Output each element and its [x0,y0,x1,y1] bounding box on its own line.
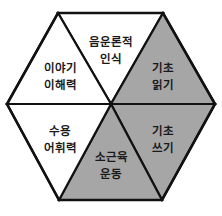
segment-upper-right-label-line1: 기초 [152,61,174,75]
segment-top-label-line1: 음운론적 [89,35,133,49]
segment-upper-right-label-line2: 읽기 [152,78,174,92]
segment-bottom-label-line2: 운동 [100,167,122,181]
segment-lower-left-label-line2: 어휘력 [44,141,77,155]
segment-bottom-label-line1: 소근육 [95,150,128,164]
segment-upper-left-label-line2: 이해력 [44,78,77,92]
segment-lower-right-label-line2: 쓰기 [152,141,174,155]
segment-lower-right-label-line1: 기초 [152,124,174,138]
segment-top-label-line2: 인식 [100,52,122,66]
hexagon-diagram: 음운론적 인식 기초 읽기 기초 쓰기 소근육 운동 수용 어휘력 이야기 이해… [0,0,222,216]
segment-lower-left-label-line1: 수용 [49,124,71,138]
segment-upper-left-label-line1: 이야기 [44,61,77,75]
